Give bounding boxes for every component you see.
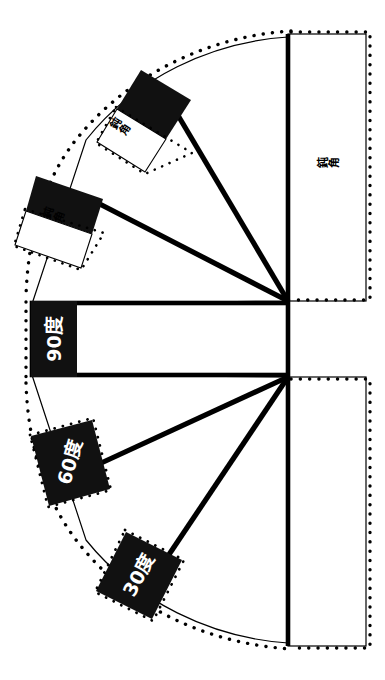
angle-diagram-canvas [0, 0, 385, 680]
right-panels [288, 34, 366, 646]
angle-diagram-figure: 鈍 角 鈍 角 鈍 角 90度 60度 30度 [0, 0, 385, 680]
right-angle-label-plate [31, 301, 77, 377]
right-panel-lower [288, 377, 366, 646]
right-angle-band [31, 301, 288, 377]
right-panel-upper [288, 34, 366, 301]
